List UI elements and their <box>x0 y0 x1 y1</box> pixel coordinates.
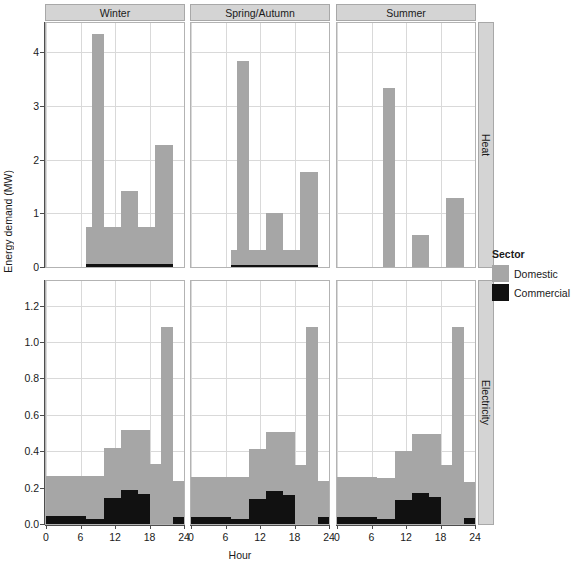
y-tick-label: 2 <box>5 154 39 166</box>
gridline-vertical <box>372 23 373 267</box>
gridline-vertical <box>475 281 476 524</box>
y-tick-label: 0 <box>5 261 39 273</box>
y-tick-label: 0.4 <box>5 445 39 457</box>
bar-domestic <box>318 481 330 517</box>
gridline-vertical <box>406 23 407 267</box>
bar-commercial <box>464 518 476 524</box>
y-tick-label: 0.8 <box>5 372 39 384</box>
bar-domestic <box>412 434 429 493</box>
bar-domestic <box>138 227 155 267</box>
bar-domestic <box>138 430 150 494</box>
bar-domestic <box>295 465 307 524</box>
panel-heat-winter <box>45 22 185 268</box>
bar-commercial <box>173 517 185 524</box>
bar-domestic <box>395 451 412 500</box>
bar-domestic <box>446 198 463 267</box>
legend: Sector Domestic Commercial <box>492 248 570 303</box>
bar-commercial <box>266 491 283 524</box>
legend-label-domestic: Domestic <box>514 268 558 280</box>
gridline-vertical <box>329 281 330 524</box>
y-tick-label: 1 <box>5 207 39 219</box>
bar-commercial <box>121 490 138 524</box>
bar-domestic <box>104 227 121 267</box>
bar-domestic <box>441 465 453 524</box>
bar-domestic <box>452 327 464 524</box>
bar-domestic <box>412 235 429 267</box>
gridline-vertical <box>295 23 296 267</box>
bar-domestic <box>121 191 138 267</box>
facet-strip-label: Winter <box>100 7 130 19</box>
facet-strip-col-winter: Winter <box>45 4 185 21</box>
x-tick-label: 18 <box>144 531 156 543</box>
y-tick-label: 1.2 <box>5 300 39 312</box>
facet-strip-label: Spring/Autumn <box>225 7 294 19</box>
x-tick-label: 6 <box>78 531 84 543</box>
bar-domestic <box>383 88 395 267</box>
x-tick-label: 6 <box>223 531 229 543</box>
bar-domestic <box>429 434 441 497</box>
gridline-vertical <box>191 23 192 267</box>
panel-electricity-summer <box>336 280 476 525</box>
bar-commercial <box>249 499 266 524</box>
bar-commercial <box>231 265 317 267</box>
x-tick-label: 6 <box>369 531 375 543</box>
gridline-vertical <box>260 23 261 267</box>
bar-commercial <box>86 519 103 524</box>
bar-domestic <box>150 464 162 524</box>
panel-electricity-spring-autumn <box>190 280 330 525</box>
bar-domestic <box>337 477 377 517</box>
bar-domestic <box>46 476 86 517</box>
facet-strip-row-electricity: Electricity <box>478 280 494 525</box>
y-axis-line <box>44 280 45 525</box>
bar-commercial <box>337 517 377 524</box>
bar-commercial <box>231 519 248 524</box>
x-tick-label: 0 <box>334 531 340 543</box>
legend-item-commercial[interactable]: Commercial <box>492 284 570 301</box>
bar-commercial <box>191 517 231 524</box>
bar-domestic <box>173 481 185 517</box>
bar-domestic <box>377 478 394 520</box>
gridline-vertical <box>184 281 185 524</box>
x-tick-label: 0 <box>188 531 194 543</box>
bar-domestic <box>237 61 249 267</box>
x-tick-label: 24 <box>469 531 481 543</box>
bar-commercial <box>429 497 441 524</box>
y-tick-label: 4 <box>5 46 39 58</box>
gridline-vertical <box>184 23 185 267</box>
y-axis-label: Energy demand (MW) <box>2 170 18 273</box>
x-tick-label: 24 <box>323 531 335 543</box>
y-tick-label: 1.0 <box>5 336 39 348</box>
bar-domestic <box>161 327 173 524</box>
bar-domestic <box>86 476 103 519</box>
y-tick-label: 0.2 <box>5 482 39 494</box>
legend-label-commercial: Commercial <box>514 287 570 299</box>
bar-domestic <box>92 34 104 267</box>
bar-commercial <box>86 264 172 267</box>
bar-commercial <box>46 516 86 524</box>
bar-domestic <box>121 430 138 490</box>
x-axis-line <box>190 525 330 526</box>
gridline-vertical <box>475 23 476 267</box>
bar-domestic <box>155 145 172 267</box>
bar-domestic <box>300 172 317 267</box>
legend-title: Sector <box>492 248 570 260</box>
legend-item-domestic[interactable]: Domestic <box>492 265 570 282</box>
panel-electricity-winter <box>45 280 185 525</box>
bar-domestic <box>266 432 283 491</box>
bar-domestic <box>464 482 476 517</box>
bar-commercial <box>395 500 412 524</box>
legend-key-domestic <box>492 265 509 282</box>
y-tick-label: 3 <box>5 100 39 112</box>
gridline-horizontal <box>46 267 184 268</box>
facet-strip-label: Summer <box>386 7 426 19</box>
gridline-vertical <box>337 23 338 267</box>
gridline-vertical <box>329 23 330 267</box>
bar-domestic <box>104 448 121 498</box>
panel-heat-spring-autumn <box>190 22 330 268</box>
facet-strip-label: Electricity <box>480 380 492 425</box>
bar-commercial <box>283 495 295 524</box>
x-axis-label: Hour <box>0 549 480 561</box>
bar-commercial <box>138 494 150 524</box>
x-axis-line <box>45 525 185 526</box>
facet-strip-col-summer: Summer <box>336 4 476 21</box>
